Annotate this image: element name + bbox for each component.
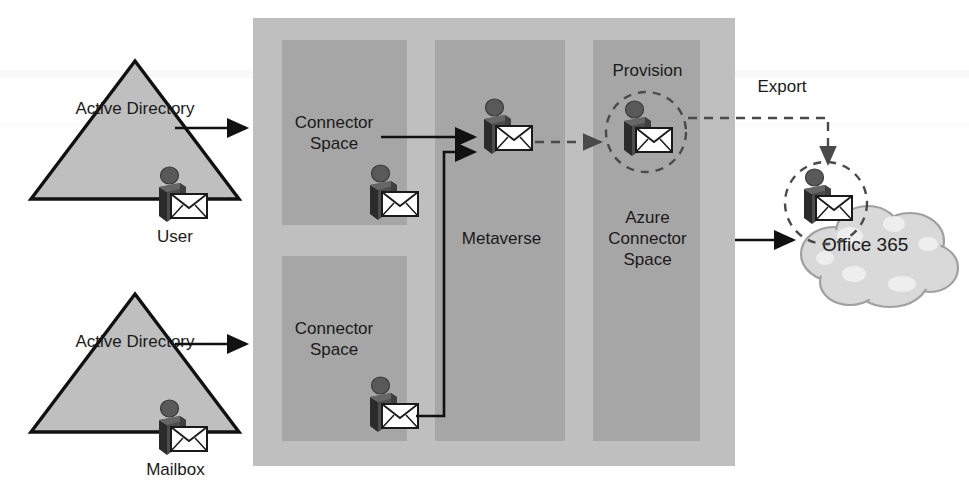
person-envelope-icon xyxy=(148,166,210,228)
person-envelope-icon xyxy=(148,399,210,461)
person-envelope-icon xyxy=(613,100,675,162)
diagram-canvas: Active Directory User Active Directory xyxy=(0,0,969,488)
column-label-metaverse: Metaverse xyxy=(444,228,559,249)
person-envelope-icon xyxy=(359,376,421,438)
column-label-azure-connector-space: Azure Connector Space xyxy=(594,207,701,270)
column-label-connector-space-mailbox: Connector Space xyxy=(279,318,389,360)
active-directory-label-mailbox: Active Directory xyxy=(65,331,205,352)
export-label: Export xyxy=(727,76,837,97)
person-envelope-icon xyxy=(793,168,855,230)
active-directory-triangle-user xyxy=(25,55,245,205)
source-object-label-mailbox: Mailbox xyxy=(108,459,243,480)
active-directory-triangle-mailbox xyxy=(25,288,245,438)
person-envelope-icon xyxy=(473,98,535,160)
provision-label: Provision xyxy=(594,60,701,81)
office365-label: Office 365 xyxy=(822,234,908,256)
column-label-connector-space-user: Connector Space xyxy=(279,112,389,154)
source-object-label-user: User xyxy=(115,226,235,247)
active-directory-label-user: Active Directory xyxy=(65,98,205,119)
person-envelope-icon xyxy=(359,164,421,226)
